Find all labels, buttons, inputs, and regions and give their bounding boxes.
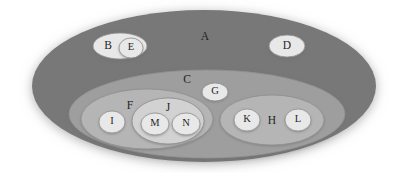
set-label-a: A (201, 30, 210, 42)
set-label-e: E (128, 41, 134, 52)
set-label-g: G (211, 85, 219, 96)
set-label-h: H (268, 114, 276, 126)
set-label-f: F (127, 99, 133, 111)
set-label-i: I (110, 115, 114, 126)
set-label-d: D (283, 39, 291, 51)
set-label-c: C (183, 73, 191, 85)
set-label-k: K (243, 113, 251, 124)
set-label-m: M (150, 117, 160, 128)
set-label-b: B (104, 39, 112, 51)
set-label-j: J (166, 101, 171, 113)
euler-diagram-canvas: ABEDCGFIJMNHKL (0, 0, 408, 173)
euler-diagram-root: ABEDCGFIJMNHKL (0, 0, 408, 173)
set-label-l: L (295, 113, 301, 124)
set-label-n: N (182, 117, 190, 128)
